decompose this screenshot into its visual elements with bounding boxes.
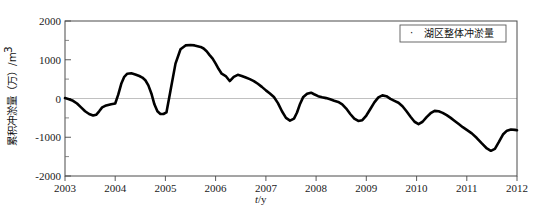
y-tick-label: 0	[56, 93, 62, 105]
x-tick-label: 2004	[104, 182, 127, 194]
y-axis-title-text: 累积冲淤量（万）/m	[6, 52, 18, 146]
y-axis-title-superscript: 3	[2, 46, 14, 53]
y-tick-labels: 2000 1000 0 -1000 -2000	[35, 15, 61, 182]
x-tick-labels: 2003 2004 2005 2006 2007 2008 2009 2010 …	[54, 182, 528, 194]
legend-label: 湖区整体冲淤量	[424, 27, 494, 39]
x-tick-label: 2012	[506, 182, 528, 194]
legend-marker-dot-icon: ·	[410, 27, 413, 38]
y-tick-label: -2000	[35, 170, 61, 182]
x-tick-label: 2003	[54, 182, 77, 194]
y-tick-label: 2000	[39, 15, 62, 27]
y-tick-label: 1000	[39, 54, 62, 66]
legend: · 湖区整体冲淤量	[400, 25, 506, 42]
x-tick-label: 2010	[406, 182, 429, 194]
figure-container: 2000 1000 0 -1000 -2000 2003 2004 2005 2…	[0, 0, 544, 217]
x-axis-title: t /y	[255, 193, 267, 205]
x-tick-label: 2008	[305, 182, 328, 194]
x-tick-label: 2005	[154, 182, 177, 194]
y-axis-title: 累积冲淤量（万）/m 3	[2, 46, 18, 146]
x-tick-label: 2006	[205, 182, 228, 194]
chart-svg: 2000 1000 0 -1000 -2000 2003 2004 2005 2…	[0, 0, 544, 217]
x-axis-title-unit: /y	[258, 193, 267, 205]
x-tick-label: 2009	[355, 182, 378, 194]
y-tick-label: -1000	[35, 131, 61, 143]
x-axis-ticks	[65, 176, 517, 181]
x-tick-label: 2011	[456, 182, 478, 194]
